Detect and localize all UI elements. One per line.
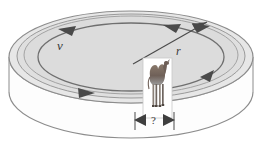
- radius-label: r: [176, 44, 181, 58]
- physics-diagram-figure: v r ?: [0, 0, 262, 151]
- unknown-label: ?: [151, 114, 156, 126]
- rotating-disk-diagram: v r ?: [0, 0, 262, 151]
- camel-figure: [143, 58, 172, 118]
- velocity-label: v: [57, 38, 63, 53]
